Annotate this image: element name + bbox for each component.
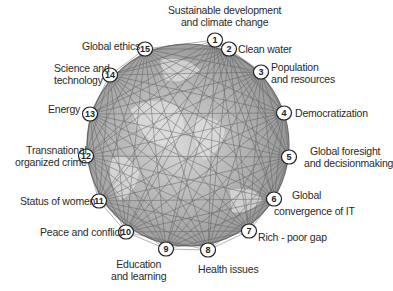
node-3: 3	[254, 65, 269, 79]
label-line: and climate change	[168, 16, 281, 28]
node-number: 11	[94, 196, 104, 206]
label-global-ethics: Global ethics	[82, 40, 140, 52]
label-education-learning: Education and learning	[111, 258, 166, 282]
label-population-resources: Population and resources	[271, 61, 335, 85]
node-number: 9	[163, 244, 168, 254]
node-2: 2	[222, 42, 237, 56]
label-transnational-crime: Transnational organized crime	[15, 144, 87, 168]
label-line: Global	[274, 189, 355, 201]
label-peace-conflict: Peace and conflict	[40, 226, 122, 238]
label-line: convergence of IT	[274, 201, 355, 217]
node-number: 1	[212, 35, 217, 45]
node-7: 7	[242, 224, 257, 238]
label-line: Science and	[54, 62, 110, 74]
node-number: 4	[281, 108, 286, 118]
label-energy: Energy	[48, 103, 80, 115]
label-line: Education	[111, 258, 166, 270]
label-line: Population	[271, 61, 335, 73]
node-number: 3	[258, 67, 263, 77]
label-rich-poor-gap: Rich - poor gap	[258, 231, 327, 243]
node-number: 8	[205, 245, 210, 255]
label-line: and resources	[271, 73, 335, 85]
label-clean-water: Clean water	[238, 43, 292, 55]
label-line: organized crime	[15, 156, 87, 168]
node-number: 13	[85, 109, 95, 119]
label-global-foresight: Global foresight and decisionmaking	[298, 145, 393, 169]
label-line: and learning	[111, 270, 166, 282]
node-1: 1	[208, 33, 223, 47]
label-democratization: Democratization	[295, 107, 368, 119]
node-13: 13	[83, 107, 98, 121]
label-status-of-women: Status of women	[20, 195, 95, 207]
node-8: 8	[201, 243, 216, 257]
node-5: 5	[282, 150, 297, 164]
node-number: 5	[286, 152, 291, 162]
label-line: Transnational	[15, 144, 87, 156]
label-global-convergence-it: Global convergence of IT	[274, 189, 355, 217]
label-science-technology: Science and technology	[54, 62, 110, 86]
label-line: and decisionmaking	[298, 157, 393, 169]
node-9: 9	[159, 242, 174, 256]
node-number: 15	[140, 44, 150, 54]
node-4: 4	[277, 106, 292, 120]
node-number: 7	[246, 226, 251, 236]
label-sustainable-development: Sustainable development and climate chan…	[168, 4, 281, 28]
label-line: technology	[54, 74, 110, 86]
label-line: Global foresight	[298, 145, 393, 157]
node-number: 2	[226, 44, 231, 54]
label-line: Sustainable development	[168, 4, 281, 16]
node-number: 10	[121, 227, 131, 237]
label-health-issues: Health issues	[198, 263, 258, 275]
